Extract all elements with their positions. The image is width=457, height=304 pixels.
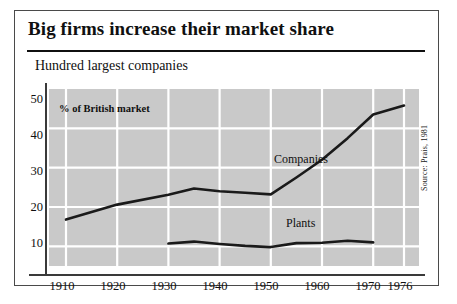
title-block: Big firms increase their market share — [15, 11, 438, 55]
plot-annotation-percent: % of British market — [59, 103, 150, 114]
y-tick-label-30: 30 — [17, 164, 43, 179]
chart-subtitle: Hundred largest companies — [35, 58, 188, 74]
x-tick-label-1940: 1940 — [193, 279, 237, 294]
x-tick-label-1930: 1930 — [142, 279, 186, 294]
y-tick-label-10: 10 — [17, 236, 43, 251]
title-divider — [27, 50, 425, 52]
y-tick-label-50: 50 — [17, 92, 43, 107]
x-tick-label-1976: 1976 — [378, 279, 422, 294]
x-tick-label-1960: 1960 — [295, 279, 339, 294]
gridlines-vertical — [66, 89, 404, 266]
plot-background — [49, 89, 419, 266]
gridlines-horizontal — [49, 128, 419, 246]
x-axis-line — [29, 274, 425, 276]
x-tick-label-1920: 1920 — [91, 279, 135, 294]
source-credit: Source: Prais, 1981 — [420, 125, 429, 191]
chart-figure: Big firms increase their market share Hu… — [14, 10, 439, 286]
series-label-companies: Companies — [274, 152, 328, 167]
page-title: Big firms increase their market share — [28, 18, 334, 40]
y-tick-label-40: 40 — [17, 128, 43, 143]
plot-canvas — [49, 89, 419, 266]
plot-region — [49, 89, 419, 266]
x-tick-label-1910: 1910 — [40, 279, 84, 294]
y-axis-line — [45, 83, 47, 275]
x-tick-label-1950: 1950 — [244, 279, 288, 294]
series-label-plants: Plants — [286, 216, 315, 231]
y-tick-label-20: 20 — [17, 200, 43, 215]
